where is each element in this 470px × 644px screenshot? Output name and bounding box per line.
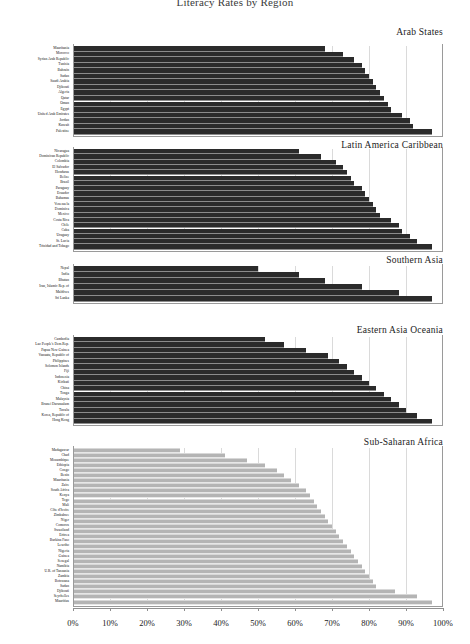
category-label: Mauritius [55,600,69,604]
category-label: Korea, Republic of [42,414,69,418]
category-label: Mexico [58,213,69,217]
category-label: Brazil [60,181,69,185]
x-axis-tick-mark [295,608,296,611]
category-label: Chad [61,454,69,458]
category-label: Tuvalu [59,409,69,413]
category-label: Nepal [60,267,69,271]
category-label-column: NepalIndiaBhutanIran, Islamic Rep. ofMal… [0,266,71,302]
category-label: India [62,273,69,277]
category-label: Guinea [59,555,69,559]
bar-row [73,419,443,424]
x-axis-tick-label: 10% [102,618,118,628]
category-label: Zambia [58,575,69,579]
category-label: Comoros [56,524,69,528]
category-label: Fiji [64,370,69,374]
x-axis-tick-label: 50% [250,618,266,628]
category-label: Jordan [59,119,69,123]
x-axis-tick-label: 30% [176,618,192,628]
category-label: Congo [59,469,69,473]
category-label-column: MadagascarChadMozambiqueEthiopiaCongoBen… [0,448,71,605]
category-label: Zaire [61,484,69,488]
x-axis: 0%10%20%30%40%50%60%70%80%90%100% [73,612,443,636]
category-label: Togo [62,499,69,503]
category-label: Seychelles [54,595,69,599]
category-label: Papua New Guinea [41,349,69,353]
category-label: Kenya [60,494,69,498]
category-label: St. Lucia [56,240,69,244]
category-label: Namibia [57,565,69,569]
category-label: Sudan [60,585,69,589]
panel-title: Southern Asia [386,255,443,265]
category-label: Mauritania [53,47,69,51]
x-axis-tick-label: 0% [67,618,78,628]
category-label: Tonga [60,392,69,396]
category-label: China [60,387,69,391]
category-label: Colombia [55,160,69,164]
bar-row [73,600,443,605]
category-label: Malaysia [56,398,69,402]
bar [73,419,432,424]
category-label: Ethiopia [57,464,69,468]
x-axis-tick-mark [221,608,222,611]
category-label: Solomon Islands [45,365,69,369]
bar [73,244,432,249]
category-label: Nicaragua [54,150,69,154]
category-label: Kuwait [58,124,69,128]
x-axis-tick-mark [110,608,111,611]
category-label: Belize [60,176,69,180]
plot-area [73,448,443,605]
bar [73,129,432,135]
x-axis-tick-label: 40% [213,618,229,628]
x-axis-tick-label: 80% [361,618,377,628]
category-label: Bahrain [58,69,69,73]
plot-area [73,46,443,135]
category-label: Djibouti [57,590,69,594]
bar [73,600,432,605]
panel-title: Sub-Saharan Africa [364,437,443,447]
category-label: Ecuador [57,192,69,196]
category-label: Brunei Darussalam [41,403,69,407]
category-label: Côte d'Ivoire [50,509,69,513]
panel-title: Eastern Asia Oceania [357,325,443,335]
category-label: Chile [61,224,69,228]
category-label: Kiribati [58,381,69,385]
category-label: Qatar [61,97,69,101]
category-label: Costa Rica [53,219,69,223]
bar-row [73,244,443,249]
category-label: Senegal [58,560,69,564]
category-label: Vanuatu, Republic of [39,354,69,358]
category-label: Syrian Arab Republic [38,58,69,62]
x-axis-tick-mark [73,608,74,611]
category-label: Oman [60,102,69,106]
category-label: Cambodia [54,338,69,342]
category-label: Bahamas [56,197,69,201]
category-label: Dominica [55,208,69,212]
x-axis-tick-label: 60% [287,618,303,628]
x-axis-tick-mark [443,608,444,611]
category-label: Bhutan [59,279,69,283]
category-label: Burkina Faso [50,539,69,543]
category-label: Botswana [55,580,69,584]
category-label: Nigeria [58,550,69,554]
x-axis-tick-mark [406,608,407,611]
category-label: Swaziland [54,529,69,533]
x-axis-tick-label: 20% [139,618,155,628]
category-label: Morocco [56,52,69,56]
literacy-chart-figure: Literacy Rates by Region Arab StatesMaur… [0,0,470,644]
x-axis-tick-label: 70% [324,618,340,628]
x-axis-tick-mark [258,608,259,611]
category-label: Trinidad and Tobago [39,245,69,249]
category-label: Sudan [60,75,69,79]
category-label: Lao People's Dem.Rep. [35,343,69,347]
category-label: El Salvador [52,166,69,170]
category-label: Sri Lanka [55,297,69,301]
category-label: Palestine [56,130,69,134]
category-label: Algeria [58,91,69,95]
category-label: Madagascar [52,449,69,453]
plot-area [73,266,443,302]
category-label: South Africa [51,489,69,493]
x-axis-tick-mark [369,608,370,611]
x-axis-tick-mark [147,608,148,611]
category-label: Maldives [56,291,69,295]
category-label: Paraguay [56,187,69,191]
